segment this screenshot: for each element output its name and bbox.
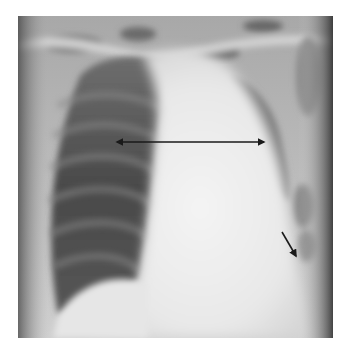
chest-xray-image <box>18 16 333 338</box>
xray-rendering <box>18 16 333 338</box>
